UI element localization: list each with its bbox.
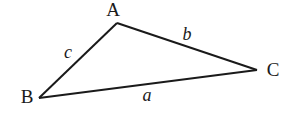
side-label-a: a: [143, 85, 152, 105]
side-label-b: b: [183, 24, 192, 44]
vertex-label-b: B: [21, 86, 34, 107]
vertex-label-a: A: [106, 0, 120, 20]
side-c-line: [39, 23, 117, 98]
triangle-diagram: A B C a b c: [0, 0, 297, 114]
vertex-label-c: C: [267, 59, 280, 80]
side-label-c: c: [64, 42, 72, 62]
triangle-svg: A B C a b c: [0, 0, 297, 114]
